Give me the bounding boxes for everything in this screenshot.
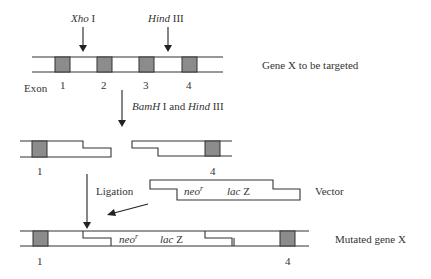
mutated-lacz-label: lac Z [160,233,183,245]
arrowhead-icon [118,120,126,127]
hind-label: Hind [147,12,171,24]
fragment-exon-4-number: 4 [210,165,216,177]
gene-targeting-diagram: Xho I Hind III Gene X to be targeted Exo… [0,0,431,279]
top-gene [32,57,223,72]
exon-3-number: 3 [143,79,149,91]
xho-site: Xho I [70,12,95,52]
exon-axis-label: Exon [24,82,48,94]
ligation-diagonal-arrow-icon [114,204,148,213]
arrowhead-icon [107,209,116,216]
xho-label: Xho [70,12,89,24]
exon-1-number: 1 [60,79,66,91]
digest-label: BamH I and Hind III [132,100,224,112]
exon-1-box [55,57,70,72]
mutated-neo-label: neor [119,232,139,245]
vector-label: Vector [315,185,344,197]
svg-text:Xho I: Xho I [70,12,95,24]
mutated-exon-1-box [33,231,48,246]
mutated-exon-1-number: 1 [37,255,43,267]
hind-site: Hind III [147,12,184,52]
exon-3-box [139,57,154,72]
arrowhead-icon [83,222,91,229]
vector-construct: neor lac Z Vector [150,180,344,200]
exon-2-box [97,57,112,72]
svg-text:Hind III: Hind III [147,12,184,24]
right-fragment: 4 [132,141,232,177]
fragment-exon-1-number: 1 [37,165,43,177]
mutated-exon-4-number: 4 [285,255,291,267]
exon-2-number: 2 [101,79,107,91]
mutated-exon-4-box [280,231,295,246]
mutated-gene-label: Mutated gene X [335,233,406,245]
mutated-gene: neor lac Z Mutated gene X 1 4 [20,231,406,267]
top-gene-label: Gene X to be targeted [262,59,359,71]
vector-lacz-label: lac Z [227,185,250,197]
ligation-label: Ligation [96,185,134,197]
exon-4-number: 4 [186,79,192,91]
exon-4-box [182,57,197,72]
vector-neo-label: neor [184,184,204,197]
fragment-exon-4-box [205,141,220,156]
digest-step: BamH I and Hind III [118,90,224,127]
left-fragment: 1 [20,141,111,177]
fragment-exon-1-box [32,141,47,157]
arrowhead-icon [79,45,87,52]
arrowhead-icon [164,45,172,52]
ligation-step: Ligation [83,174,148,229]
